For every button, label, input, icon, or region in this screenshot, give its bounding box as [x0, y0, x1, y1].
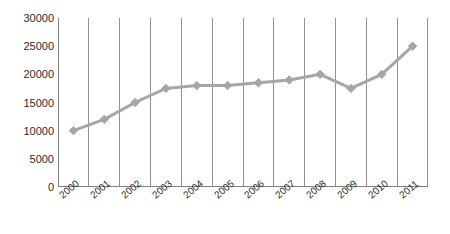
y-axis-tick-label: 5000: [2, 154, 54, 165]
y-axis-tick-label: 25000: [2, 41, 54, 52]
y-axis-tick-label: 10000: [2, 126, 54, 137]
x-axis-tick-labels: 2000200120022003200420052006200720082009…: [58, 188, 428, 234]
y-axis-tick-label: 15000: [2, 98, 54, 109]
y-axis-tick-labels: 050001000015000200002500030000: [0, 0, 54, 234]
data-point-marker: [69, 126, 77, 134]
plot-area: [58, 18, 428, 187]
data-point-marker: [223, 81, 231, 89]
y-axis-tick-label: 0: [2, 182, 54, 193]
y-axis-tick-label: 20000: [2, 69, 54, 80]
data-point-marker: [254, 79, 262, 87]
plot-svg: [58, 18, 428, 187]
line-chart: 050001000015000200002500030000 200020012…: [0, 0, 450, 234]
data-point-marker: [285, 76, 293, 84]
data-point-marker: [193, 81, 201, 89]
y-axis-tick-label: 30000: [2, 13, 54, 24]
